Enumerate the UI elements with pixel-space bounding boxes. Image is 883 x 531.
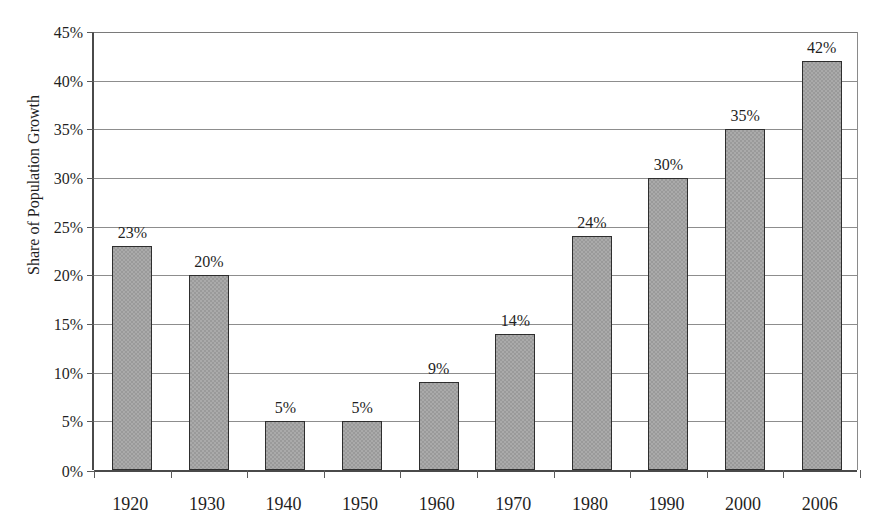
y-axis-tick	[87, 471, 94, 472]
y-axis-tick-label: 10%	[54, 365, 83, 383]
bar-value-label-1940: 5%	[275, 399, 296, 417]
x-axis-tick	[94, 470, 95, 478]
y-axis-tick-label: 45%	[54, 24, 83, 42]
bar-slot: 23%	[94, 32, 171, 470]
plot-area: 0%5%10%15%20%25%30%35%40%45% 23%20%5%5%9…	[92, 32, 858, 470]
bar-1920[interactable]	[112, 246, 152, 470]
bar-slot: 9%	[400, 32, 477, 470]
bar-value-label-1960: 9%	[428, 360, 449, 378]
y-axis-tick	[87, 227, 94, 228]
bar-1940[interactable]	[265, 421, 305, 470]
bar-value-label-1970: 14%	[501, 312, 530, 330]
bar-slot: 35%	[707, 32, 784, 470]
y-axis-tick-label: 30%	[54, 170, 83, 188]
x-axis-tick	[400, 470, 401, 478]
bar-slot: 14%	[477, 32, 554, 470]
bar-1980[interactable]	[572, 236, 612, 470]
y-axis-tick-label: 20%	[54, 267, 83, 285]
y-axis-tick	[87, 129, 94, 130]
x-axis-tick	[247, 470, 248, 478]
bar-value-label-1920: 23%	[118, 224, 147, 242]
y-axis-tick-label: 0%	[62, 463, 83, 481]
y-axis-tick-label: 15%	[54, 316, 83, 334]
bar-value-label-1990: 30%	[654, 156, 683, 174]
bar-1960[interactable]	[419, 382, 459, 470]
bar-slot: 42%	[783, 32, 860, 470]
bar-slot: 20%	[171, 32, 248, 470]
bar-1990[interactable]	[648, 178, 688, 470]
bar-value-label-1950: 5%	[351, 399, 372, 417]
cropped-title-remnant	[0, 0, 883, 11]
bar-1950[interactable]	[342, 421, 382, 470]
y-axis-tick-label: 40%	[54, 73, 83, 91]
bar-chart-figure: Share of Population Growth 0%5%10%15%20%…	[0, 0, 883, 531]
bar-1970[interactable]	[495, 334, 535, 470]
y-axis-tick	[87, 32, 94, 33]
bar-value-label-2000: 35%	[730, 107, 759, 125]
bar-1930[interactable]	[189, 275, 229, 470]
y-axis-tick-label: 25%	[54, 219, 83, 237]
y-axis-tick	[87, 324, 94, 325]
x-axis-tick	[783, 470, 784, 478]
bars-group: 23%20%5%5%9%14%24%30%35%42%	[94, 32, 857, 470]
y-axis-tick	[87, 81, 94, 82]
bar-value-label-1930: 20%	[194, 253, 223, 271]
x-axis-tick	[324, 470, 325, 478]
x-axis-tick	[477, 470, 478, 478]
bar-2006[interactable]	[802, 61, 842, 470]
bar-slot: 30%	[630, 32, 707, 470]
bar-value-label-1980: 24%	[577, 214, 606, 232]
y-axis-tick	[87, 275, 94, 276]
x-axis-tick	[630, 470, 631, 478]
bar-value-label-2006: 42%	[807, 39, 836, 57]
y-axis-title: Share of Population Growth	[21, 55, 47, 315]
bar-2000[interactable]	[725, 129, 765, 470]
bar-slot: 5%	[324, 32, 401, 470]
x-axis-tick	[707, 470, 708, 478]
x-axis-tick	[171, 470, 172, 478]
x-axis-label-2006: 2006	[765, 494, 875, 515]
bar-slot: 24%	[554, 32, 631, 470]
gridline: 0%	[94, 470, 857, 472]
y-axis-tick-label: 35%	[54, 121, 83, 139]
x-axis-tick	[860, 470, 861, 478]
y-axis-tick-label: 5%	[62, 413, 83, 431]
y-axis-tick	[87, 178, 94, 179]
y-axis-tick	[87, 421, 94, 422]
bar-slot: 5%	[247, 32, 324, 470]
y-axis-tick	[87, 373, 94, 374]
x-axis-tick	[554, 470, 555, 478]
